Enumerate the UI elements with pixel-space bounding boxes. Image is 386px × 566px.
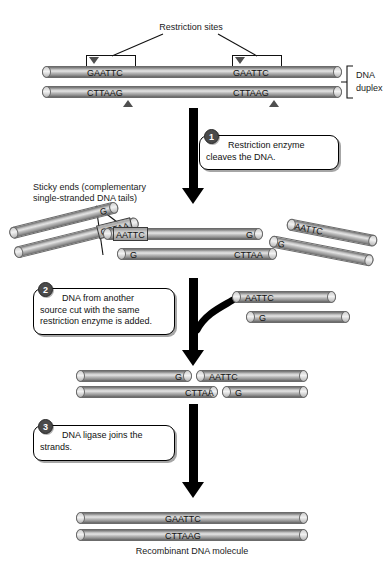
step-2-line3: restriction enzyme is added. — [40, 316, 170, 328]
strand-cap-right-icon — [333, 86, 342, 98]
annealed-bottom-right-sequence: G — [235, 387, 242, 399]
product-bottom-sequence: CTTAAG — [165, 530, 201, 542]
right-fragment-group: AATTC G — [278, 218, 386, 286]
step-3-badge: 3 — [38, 419, 53, 434]
process-arrow-3-head-icon — [182, 482, 204, 498]
annealed-top-strand-right: AATTC — [196, 370, 308, 382]
strand-cap-left-icon — [8, 226, 20, 240]
step-2-line1: DNA from another — [40, 293, 170, 305]
restriction-leader-right — [218, 34, 257, 56]
process-arrow-2-shaft — [189, 278, 198, 352]
cut-arrow-top-right-icon — [235, 57, 245, 64]
product-bottom-strand: CTTAAG — [76, 529, 308, 541]
strand-cap-left-icon — [76, 370, 85, 382]
process-arrow-1-head-icon — [182, 188, 204, 204]
center-fragment-bottom-left-sequence: G — [130, 249, 137, 261]
strand-cap-left-icon — [76, 512, 85, 524]
dna-duplex-label-line2: duplex — [356, 83, 383, 94]
strand-cap-left-icon — [42, 86, 51, 98]
duplex-bottom-strand: CTTAAG CTTAAG — [42, 86, 342, 98]
process-arrow-2-head-icon — [182, 350, 204, 366]
restriction-leader-left — [112, 34, 163, 56]
curved-merge-arrow — [197, 298, 236, 330]
step-2-text: DNA from another source cut with the sam… — [40, 293, 170, 328]
strand-cap-left-icon — [76, 529, 85, 541]
strand-cap-left-icon — [222, 386, 231, 398]
strand-cap-left-icon — [232, 291, 241, 303]
strand-cap-left-icon — [42, 66, 51, 78]
right-fragment-bottom-sequence: G — [277, 238, 286, 251]
step-1-callout: Restriction enzyme cleaves the DNA. — [199, 135, 339, 170]
process-arrow-1-shaft — [189, 108, 198, 190]
strand-cap-right-icon — [327, 291, 336, 303]
step-3-line1: DNA ligase joins the — [40, 430, 170, 442]
annealed-top-left-sequence: G — [175, 371, 182, 383]
step-1-text: Restriction enzyme cleaves the DNA. — [206, 140, 334, 163]
dna-duplex-brace — [341, 66, 353, 98]
duplex-bottom-sequence-left: CTTAAG — [87, 87, 123, 99]
step-1-badge: 1 — [204, 129, 219, 144]
duplex-top-sequence-left: GAATTC — [87, 67, 123, 79]
step-2-badge: 2 — [38, 282, 53, 297]
strand-cap-right-icon — [108, 201, 120, 215]
strand-cap-right-icon — [299, 370, 308, 382]
step-1-line2: cleaves the DNA. — [206, 152, 334, 164]
step-3-line2: strands. — [40, 442, 170, 454]
left-fragment-top-sequence: G — [98, 205, 108, 218]
strand-cap-right-icon — [341, 311, 350, 323]
strand-cap-left-icon — [196, 370, 205, 382]
strand-cap-right-icon — [367, 234, 378, 247]
strand-cap-left-icon — [117, 248, 126, 260]
strand-cap-left-icon — [13, 245, 25, 259]
strand-cap-right-icon — [299, 386, 308, 398]
sticky-ends-label-line1: Sticky ends (complementary — [33, 182, 146, 193]
center-fragment-bottom-strand: G CTTAA — [117, 248, 277, 260]
restriction-sites-label: Restriction sites — [131, 22, 251, 33]
annealed-bottom-strand-left: CTTAA — [76, 386, 218, 398]
donor-fragment-bottom-strand: G — [246, 311, 350, 323]
donor-fragment-top-strand: AATTC — [232, 291, 336, 303]
step-3-callout: DNA ligase joins the strands. — [33, 425, 175, 461]
strand-cap-right-icon — [299, 512, 308, 524]
cut-arrow-bottom-left-icon — [123, 100, 133, 107]
duplex-top-sequence-right: GAATTC — [233, 67, 269, 79]
strand-cap-left-icon — [103, 228, 112, 240]
strand-cap-right-icon — [299, 529, 308, 541]
right-fragment-top-sequence: AATTC — [293, 221, 324, 238]
cut-arrow-bottom-right-icon — [269, 100, 279, 107]
process-arrow-3-shaft — [189, 404, 198, 484]
annealed-top-right-sequence: AATTC — [209, 371, 238, 383]
center-fragment-sticky-end-top-sequence: AATTC — [113, 227, 148, 241]
recombinant-dna-caption: Recombinant DNA molecule — [76, 546, 308, 557]
product-top-sequence: GAATTC — [165, 513, 201, 525]
donor-fragment-top-sequence: AATTC — [245, 292, 274, 304]
step-1-line1: Restriction enzyme — [206, 140, 334, 152]
strand-cap-right-icon — [363, 253, 374, 266]
product-top-strand: GAATTC — [76, 512, 308, 524]
donor-fragment-bottom-sequence: G — [259, 312, 266, 324]
strand-cap-right-icon — [268, 248, 277, 260]
duplex-bottom-sequence-right: CTTAAG — [233, 87, 269, 99]
center-fragment-top-right-sequence: G — [246, 229, 253, 241]
strand-cap-right-icon — [333, 66, 342, 78]
step-2-line2: source cut with the same — [40, 305, 170, 317]
center-fragment-bottom-right-sequence: CTTAA — [234, 249, 263, 261]
strand-cap-right-icon — [183, 370, 192, 382]
annealed-top-strand-left: G — [76, 370, 192, 382]
step-3-text: DNA ligase joins the strands. — [40, 430, 170, 453]
step-2-callout: DNA from another source cut with the sam… — [33, 288, 175, 335]
annealed-bottom-strand-right: G — [222, 386, 308, 398]
strand-cap-right-icon — [254, 228, 263, 240]
strand-cap-left-icon — [76, 386, 85, 398]
dna-duplex-label-line1: DNA — [356, 70, 375, 81]
annealed-bottom-left-sequence: CTTAA — [185, 387, 214, 399]
cut-arrow-top-left-icon — [89, 57, 99, 64]
strand-cap-left-icon — [246, 311, 255, 323]
duplex-top-strand: GAATTC GAATTC — [42, 66, 342, 78]
